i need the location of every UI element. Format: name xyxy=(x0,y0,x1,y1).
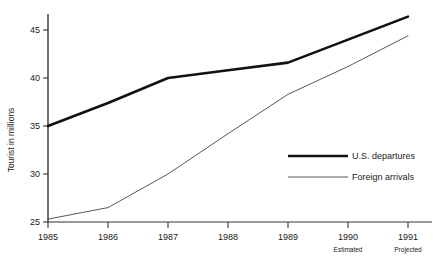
y-tick-label-30: 30 xyxy=(30,169,40,179)
chart-legend: U.S. departures Foreign arrivals xyxy=(288,151,416,182)
y-tick-label-35: 35 xyxy=(30,121,40,131)
x-tick-label-1989: 1989 xyxy=(278,232,298,242)
y-tick-label-40: 40 xyxy=(30,73,40,83)
y-tick-label-25: 25 xyxy=(30,217,40,227)
y-axis-title: Tourist in millions xyxy=(6,108,16,173)
x-sublabel-1990-estimated: Estimated xyxy=(334,246,363,253)
y-tick-label-45: 45 xyxy=(30,25,40,35)
line-chart: 25 30 35 40 45 Tourist in millions 1985 … xyxy=(0,0,440,260)
x-tick-label-1991: 1991 xyxy=(398,232,418,242)
x-tick-label-1985: 1985 xyxy=(38,232,58,242)
legend-label-foreign-arrivals: Foreign arrivals xyxy=(352,172,415,182)
series-line-us-departures xyxy=(48,17,408,126)
legend-label-us-departures: U.S. departures xyxy=(352,151,416,161)
x-sublabel-1991-projected: Projected xyxy=(394,246,422,254)
x-tick-label-1988: 1988 xyxy=(218,232,238,242)
x-tick-label-1987: 1987 xyxy=(158,232,178,242)
series-line-foreign-arrivals xyxy=(48,36,408,219)
x-tick-label-1990: 1990 xyxy=(338,232,358,242)
chart-canvas: 25 30 35 40 45 Tourist in millions 1985 … xyxy=(0,0,440,260)
x-tick-label-1986: 1986 xyxy=(98,232,118,242)
